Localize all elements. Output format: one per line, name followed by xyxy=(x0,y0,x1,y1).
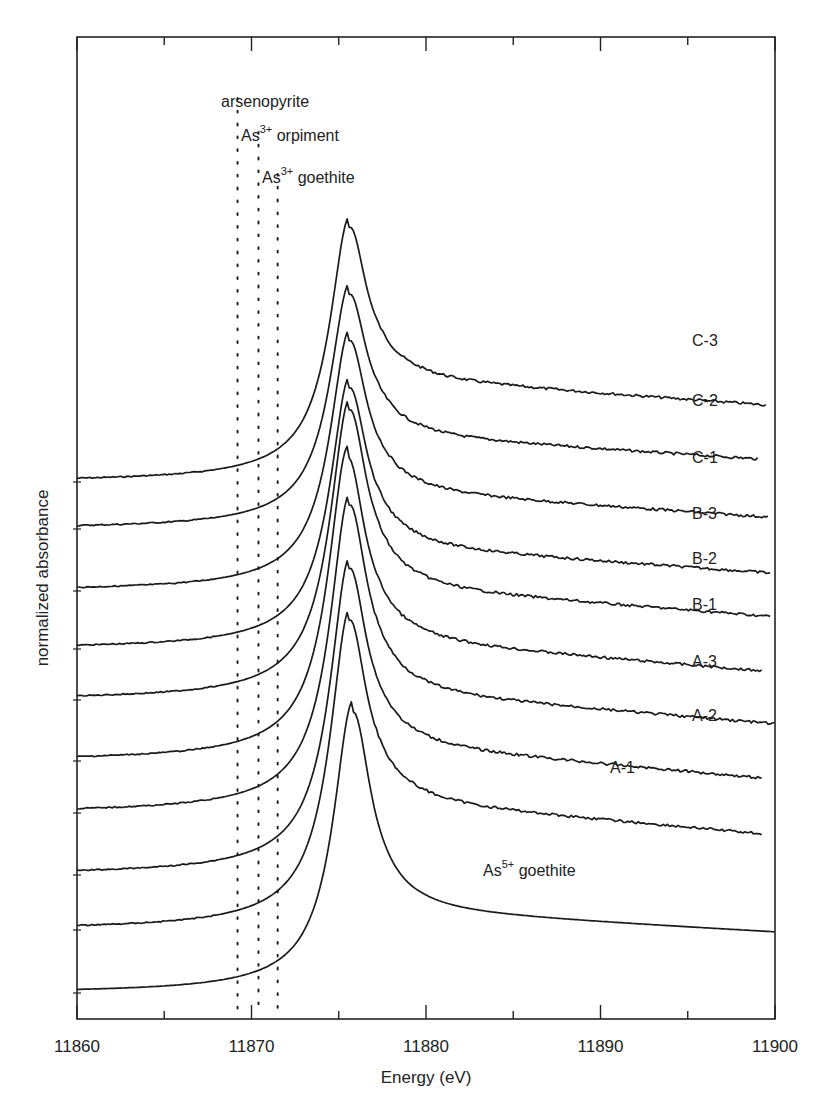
series-label: B-2 xyxy=(692,550,717,567)
x-axis-tick-labels: 1186011870118801189011900 xyxy=(54,1037,798,1056)
ref-label-orpiment: As3+ orpiment xyxy=(241,123,339,144)
x-tick-label: 11900 xyxy=(752,1037,798,1056)
x-tick-label: 11890 xyxy=(577,1037,623,1056)
series-label: A-1 xyxy=(610,759,635,776)
x-tick-label: 11870 xyxy=(228,1037,274,1056)
x-axis-label: Energy (eV) xyxy=(381,1068,472,1087)
reference-lines xyxy=(238,98,278,1010)
spectra-traces xyxy=(77,219,774,990)
y-axis-label: normalized absorbance xyxy=(33,490,52,667)
trace-b-3 xyxy=(77,380,770,646)
series-label: B-1 xyxy=(692,596,717,613)
plot-frame xyxy=(73,37,775,1019)
series-label: A-3 xyxy=(692,653,717,670)
plot-border xyxy=(77,37,775,1019)
trace-c-2 xyxy=(77,286,758,526)
trace-c-1 xyxy=(77,332,768,587)
ref-label-arsenopyrite: arsenopyrite xyxy=(221,93,309,110)
series-label: C-1 xyxy=(692,449,718,466)
trace-b-2 xyxy=(77,402,770,696)
series-label-as5-goethite: As5+ goethite xyxy=(483,858,576,879)
series-label: C-3 xyxy=(692,332,718,349)
xanes-chart: C-3C-2C-1B-3B-2B-1A-3A-2A-1 arsenopyrite… xyxy=(0,0,829,1114)
series-label: A-2 xyxy=(692,707,717,724)
ref-label-as3-goethite: As3+ goethite xyxy=(262,165,355,186)
trace-a-3 xyxy=(77,497,774,809)
x-tick-label: 11860 xyxy=(54,1037,100,1056)
series-label: B-3 xyxy=(692,505,717,522)
x-tick-label: 11880 xyxy=(403,1037,449,1056)
trace-b-1 xyxy=(77,446,762,756)
series-label: C-2 xyxy=(692,392,718,409)
trace-as5-goethite xyxy=(77,702,774,990)
trace-c-3 xyxy=(77,219,766,478)
